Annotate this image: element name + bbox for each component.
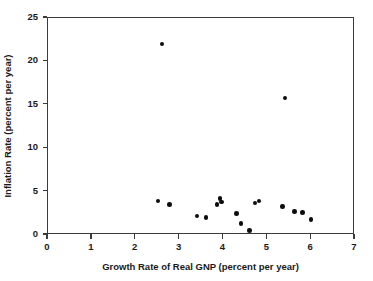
y-axis-tick [43, 60, 48, 61]
plot-area [47, 17, 354, 234]
data-points-layer [48, 18, 353, 233]
data-point [167, 202, 172, 207]
data-point [156, 199, 161, 204]
data-point [280, 204, 285, 209]
x-axis-tick-label: 5 [251, 241, 281, 252]
y-axis-tick [43, 103, 48, 104]
y-axis-label-container: Inflation Rate (percent per year) [0, 17, 14, 234]
x-axis-tick-label: 2 [120, 241, 150, 252]
y-axis-tick [43, 190, 48, 191]
x-axis-tick-label: 3 [164, 241, 194, 252]
scatter-chart-figure: 012345670510152025 Growth Rate of Real G… [0, 0, 373, 281]
x-axis-tick-label: 4 [207, 241, 237, 252]
x-axis-tick [46, 234, 47, 239]
x-axis-tick [353, 234, 354, 239]
x-axis-tick [266, 234, 267, 239]
x-axis-tick-label: 6 [295, 241, 325, 252]
data-point [283, 96, 288, 101]
x-axis-tick [90, 234, 91, 239]
x-axis-tick [310, 234, 311, 239]
x-axis-label: Growth Rate of Real GNP (percent per yea… [47, 261, 354, 272]
data-point [239, 221, 244, 226]
data-point [257, 199, 262, 204]
x-axis-tick-label: 1 [76, 241, 106, 252]
data-point [204, 215, 209, 220]
x-axis-tick [222, 234, 223, 239]
y-axis-label: Inflation Rate (percent per year) [2, 54, 13, 197]
data-point [160, 42, 165, 47]
data-point [234, 211, 239, 216]
data-point [292, 209, 297, 214]
data-point [247, 228, 252, 233]
x-axis-tick [134, 234, 135, 239]
x-axis-tick-label: 7 [339, 241, 369, 252]
data-point [300, 210, 305, 215]
data-point [309, 217, 314, 222]
y-axis-tick [43, 147, 48, 148]
data-point [195, 214, 200, 219]
x-axis-tick [178, 234, 179, 239]
y-axis-tick [43, 16, 48, 17]
x-axis-tick-label: 0 [32, 241, 62, 252]
data-point [219, 200, 224, 205]
y-axis-tick [43, 233, 48, 234]
